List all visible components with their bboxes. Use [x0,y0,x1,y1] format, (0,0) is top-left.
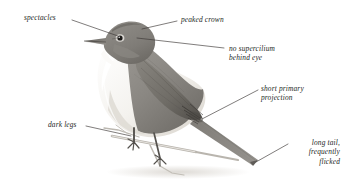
annotation-label-short-primary-projection: short primary projection [261,84,304,103]
annotation-label-peaked-crown: peaked crown [181,15,224,24]
annotation-label-no-supercilium-behind-eye: no supercilium behind eye [229,44,275,63]
annotation-label-long-tail-frequently-flicked: long tail, frequently flicked [222,138,340,166]
ground-shadow [106,165,250,179]
annotation-label-spectacles: spectacles [24,13,56,22]
annotation-label-dark-legs: dark legs [48,120,77,129]
bird-bill [84,38,106,45]
leader-peaked-crown [142,21,177,29]
leader-spectacles [72,20,118,36]
leader-short-primary-projection [202,90,258,119]
